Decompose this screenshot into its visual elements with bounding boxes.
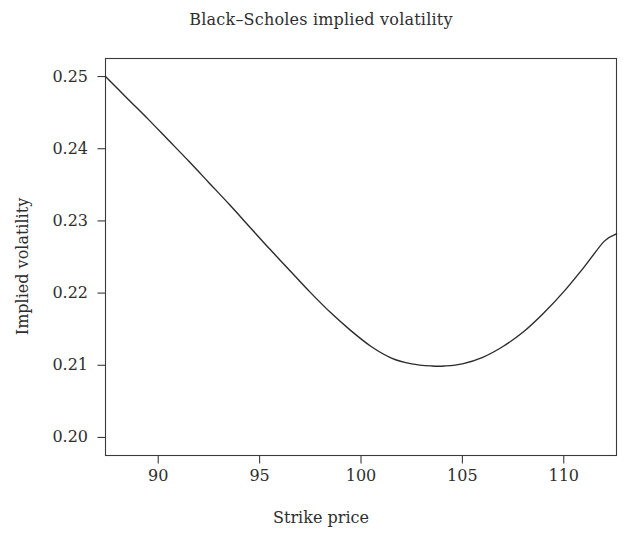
axes-frame <box>106 59 617 456</box>
y-tick-label: 0.22 <box>28 285 88 301</box>
y-tick-marks <box>98 77 106 438</box>
y-tick-label: 0.21 <box>28 357 88 373</box>
chart-title: Black–Scholes implied volatility <box>0 10 642 29</box>
x-tick-marks <box>158 456 564 464</box>
x-axis-label: Strike price <box>0 508 642 527</box>
chart-figure: Black–Scholes implied volatility Implied… <box>0 0 642 553</box>
y-tick-label: 0.20 <box>28 429 88 445</box>
x-tick-label: 110 <box>529 468 599 484</box>
x-tick-label: 90 <box>123 468 193 484</box>
plot-frame <box>106 59 617 456</box>
x-tick-label: 105 <box>427 468 497 484</box>
y-tick-label: 0.24 <box>28 141 88 157</box>
x-tick-label: 95 <box>225 468 295 484</box>
y-tick-label: 0.23 <box>28 213 88 229</box>
y-tick-label: 0.25 <box>28 69 88 85</box>
y-axis-label: Implied volatility <box>13 157 32 377</box>
x-tick-label: 100 <box>326 468 396 484</box>
volatility-smile-curve <box>106 77 617 367</box>
